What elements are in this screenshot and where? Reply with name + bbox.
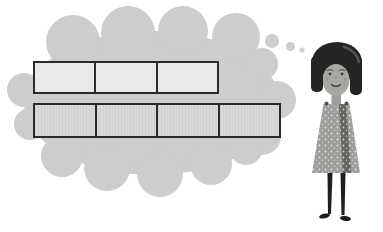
illustration-scene [0,0,383,232]
top-strip [33,61,219,94]
top-strip-cell [94,63,155,92]
top-strip-cell [156,63,217,92]
bottom-strip-cell [95,105,157,136]
bottom-strip [33,103,281,138]
bars-layer [0,0,383,232]
top-strip-cell [35,63,94,92]
bottom-strip-cell [35,105,95,136]
bottom-strip-cell [156,105,218,136]
bottom-strip-cell [218,105,280,136]
